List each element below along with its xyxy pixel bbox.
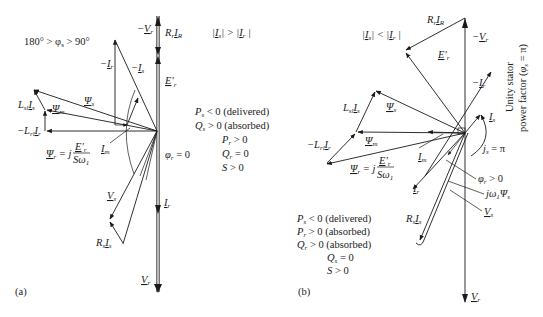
label-phi-r-b: φr > 0	[478, 173, 503, 186]
label-rr-ir: RrIR	[164, 27, 183, 40]
label-neg-ir: −Ir	[100, 58, 114, 71]
label-neg-vr-b: −Vr	[472, 31, 489, 44]
label-vs-b: Vs	[484, 206, 493, 219]
panel-b-conditions: Ps < 0 (delivered) Pr > 0 (absorbed) Qr …	[296, 213, 372, 276]
er-vector-b	[406, 53, 465, 133]
label-psi-s-b: Ψs	[386, 101, 396, 114]
svg-text:Qs > 0 (absorbed): Qs > 0 (absorbed)	[195, 120, 270, 133]
rs-is-vector	[110, 222, 123, 243]
ir-arrowhead	[155, 205, 161, 214]
rs-is-hook	[416, 240, 424, 245]
label-ir: Ir	[163, 197, 171, 210]
label-im: Im	[100, 143, 110, 156]
panel-a-conditions: Ps < 0 (delivered) Qs > 0 (absorbed) Pr …	[194, 106, 270, 173]
label-vr: Vr	[141, 274, 150, 287]
label-is-b: Is	[488, 111, 496, 124]
svg-text:power factor (φs = π): power factor (φs = π)	[517, 44, 530, 132]
label-psi-m-b: Ψm	[365, 135, 377, 148]
svg-text:Unity stator: Unity stator	[504, 62, 515, 112]
vs-vector-b	[424, 133, 468, 240]
label-psi-r-eq: Ψr = j	[46, 148, 71, 161]
label-lsl-is-b: LslIs	[342, 102, 360, 115]
label-er-b: E′r	[437, 49, 450, 62]
label-psi-r-eq-b: Ψr = j	[350, 163, 375, 176]
svg-text:Pr > 0: Pr > 0	[221, 134, 248, 147]
im-leader-b	[419, 134, 443, 148]
svg-text:Pr > 0 (absorbed): Pr > 0 (absorbed)	[296, 226, 371, 239]
label-angle-condition: 180° > φs > 90°	[24, 36, 90, 49]
label-neg-lrl-ir-b: −LrlIr	[307, 139, 331, 152]
is-vector-b	[465, 115, 480, 133]
unity-power-factor-note: Unity stator power factor (φs = π)	[504, 44, 530, 132]
panel-b-magnitude-relation: |Is| < |Ir |	[362, 29, 401, 42]
label-psi-s: Ψs	[84, 95, 94, 108]
label-psi-r-frac-num-b: E′r	[378, 155, 391, 168]
vs-vector	[110, 131, 157, 219]
phasor-diagram-figure: −Vr RrIR 180° > φs > 90° −Ir −Is E′r Lsl…	[0, 0, 543, 317]
svg-text:Ps < 0 (delivered): Ps < 0 (delivered)	[194, 106, 270, 119]
vs-total-line	[123, 131, 157, 244]
label-psi-r-frac-num: E′r	[74, 141, 87, 154]
label-rr-ir-b: RrIR	[426, 14, 445, 27]
label-lsl-is: LslIs	[17, 99, 35, 112]
panel-b-caption: (b)	[298, 286, 311, 298]
label-vr-b: Vr	[471, 291, 480, 304]
panel-a-magnitude-relation: |Is| > |Ir |	[212, 27, 251, 40]
label-phi-r: φr = 0	[165, 149, 190, 162]
neg-is-line	[115, 40, 157, 131]
label-neg-lrl-ir: −LrlIr	[17, 125, 41, 138]
label-vs: Vs	[107, 190, 116, 203]
label-js-b: js = π	[481, 143, 506, 156]
svg-text:S > 0: S > 0	[327, 265, 349, 276]
im-leader	[110, 128, 130, 143]
svg-text:S > 0: S > 0	[222, 162, 244, 173]
vr-arrowhead-b	[462, 294, 468, 303]
label-im-b: Im	[417, 151, 427, 164]
label-rs-is: RsIs	[95, 237, 112, 250]
label-psi-m: Ψm	[52, 103, 64, 116]
vr-arrowhead	[154, 284, 162, 293]
psi-r-vector-b	[327, 133, 465, 164]
svg-text:Qr = 0: Qr = 0	[222, 148, 249, 161]
panel-a-caption: (a)	[15, 286, 27, 298]
neg-vr-arrowhead	[155, 16, 161, 26]
vs-leader	[450, 190, 482, 211]
svg-text:Qr > 0 (absorbed): Qr > 0 (absorbed)	[297, 239, 372, 252]
label-neg-vr: −Vr	[137, 23, 154, 36]
label-neg-ir-b: −Ir	[472, 77, 486, 90]
panel-b: |Is| < |Ir | RrIR −Vr E′r −Ir Is LslIs Ψ…	[296, 14, 530, 304]
label-er: E′r	[164, 75, 177, 89]
label-psi-r-frac-den-b: Sω1	[377, 169, 393, 182]
svg-text:Qs = 0: Qs = 0	[327, 252, 354, 265]
label-ir-b: Ir	[412, 183, 420, 196]
svg-text:Ps < 0 (delivered): Ps < 0 (delivered)	[296, 213, 372, 226]
label-neg-is: −Is	[131, 62, 145, 75]
label-rs-is-b: RsIs	[405, 213, 422, 226]
psi-s-vector-b	[376, 91, 465, 133]
label-jw-psi-b: jω1Ψs	[484, 188, 510, 201]
phi-s-arc	[126, 90, 135, 174]
panel-a: −Vr RrIR 180° > φs > 90° −Ir −Is E′r Lsl…	[15, 16, 270, 298]
label-psi-r-frac-den: Sω1	[73, 154, 89, 167]
